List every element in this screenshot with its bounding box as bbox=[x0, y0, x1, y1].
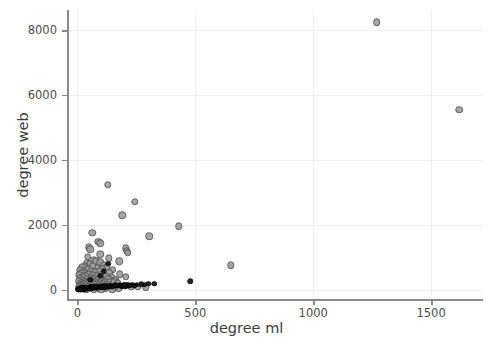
y-axis-tick bbox=[62, 95, 67, 96]
scatter-point bbox=[89, 229, 97, 237]
scatter-point bbox=[116, 257, 124, 265]
y-axis-tick-label: 6000 bbox=[0, 88, 57, 102]
scatter-point bbox=[146, 232, 154, 240]
x-axis-tick-label: 1000 bbox=[299, 306, 328, 320]
x-axis-label: degree ml bbox=[0, 320, 493, 336]
x-axis-tick bbox=[195, 300, 196, 305]
gridline-vertical bbox=[77, 10, 78, 300]
x-axis-tick bbox=[77, 300, 78, 305]
gridline-horizontal bbox=[68, 225, 483, 226]
y-axis-tick-label: 4000 bbox=[0, 153, 57, 167]
gridline-vertical bbox=[431, 10, 432, 300]
x-axis-tick-label: 0 bbox=[74, 306, 81, 320]
scatter-point bbox=[187, 279, 193, 285]
scatter-point bbox=[131, 198, 139, 206]
gridline-vertical bbox=[313, 10, 314, 300]
scatter-point bbox=[78, 287, 84, 293]
gridline-horizontal bbox=[68, 30, 483, 31]
scatter-point bbox=[84, 253, 92, 261]
x-axis-tick bbox=[313, 300, 314, 305]
scatter-point bbox=[105, 261, 111, 267]
scatter-point bbox=[227, 262, 235, 270]
y-axis-tick bbox=[62, 225, 67, 226]
scatter-point bbox=[121, 282, 127, 288]
scatter-point bbox=[122, 273, 130, 281]
y-axis-tick bbox=[62, 290, 67, 291]
scatter-point bbox=[118, 212, 126, 220]
scatter-point bbox=[96, 239, 104, 247]
scatter-chart-figure: degree ml degree web 0200040006000800005… bbox=[0, 0, 493, 342]
scatter-point bbox=[151, 281, 157, 287]
gridline-horizontal bbox=[68, 95, 483, 96]
scatter-point bbox=[96, 251, 104, 259]
scatter-point bbox=[88, 277, 94, 283]
scatter-point bbox=[131, 283, 137, 289]
gridline-horizontal bbox=[68, 160, 483, 161]
y-axis-tick bbox=[62, 160, 67, 161]
scatter-point bbox=[142, 282, 148, 288]
y-axis-tick-label: 2000 bbox=[0, 218, 57, 232]
x-axis-tick-label: 500 bbox=[184, 306, 206, 320]
y-axis-tick-label: 8000 bbox=[0, 23, 57, 37]
scatter-point bbox=[175, 222, 183, 230]
y-axis-spine bbox=[67, 10, 69, 300]
x-axis-tick-label: 1500 bbox=[416, 306, 445, 320]
scatter-point bbox=[456, 106, 464, 114]
gridline-vertical bbox=[195, 10, 196, 300]
x-axis-spine bbox=[67, 299, 483, 301]
x-axis-tick bbox=[431, 300, 432, 305]
scatter-point bbox=[97, 273, 103, 279]
y-axis-tick-label: 0 bbox=[0, 283, 57, 297]
scatter-point bbox=[104, 181, 112, 189]
scatter-point bbox=[373, 18, 381, 26]
y-axis-tick bbox=[62, 30, 67, 31]
plot-area bbox=[68, 10, 483, 300]
scatter-point bbox=[124, 249, 132, 257]
